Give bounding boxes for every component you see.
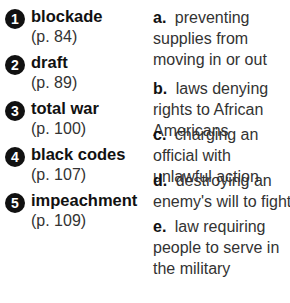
definition-item: a. preventing supplies from moving in or… xyxy=(153,7,290,70)
number-circle-icon: 1 xyxy=(5,9,25,29)
term-word: total war xyxy=(31,99,99,118)
definition-letter: a. xyxy=(153,9,166,26)
definition-letter: b. xyxy=(153,80,167,97)
definition-text: preventing supplies from moving in or ou… xyxy=(153,9,267,68)
page-reference: (p. 89) xyxy=(31,74,77,92)
page-reference: (p. 109) xyxy=(31,212,86,230)
page-reference: (p. 100) xyxy=(31,120,86,138)
number-circle-icon: 5 xyxy=(5,193,25,213)
definition-item: d. destroying an enemy's will to fight xyxy=(153,170,290,212)
definition-letter: d. xyxy=(153,172,167,189)
term-word: impeachment xyxy=(31,191,137,210)
page-reference: (p. 84) xyxy=(31,28,77,46)
number-circle-icon: 4 xyxy=(5,147,25,167)
definition-text: law requiring people to serve in the mil… xyxy=(153,218,279,277)
term-word: black codes xyxy=(31,145,125,164)
definition-text: destroying an enemy's will to fight xyxy=(153,172,290,210)
number-circle-icon: 2 xyxy=(5,55,25,75)
term-word: blockade xyxy=(31,7,103,26)
definition-letter: c. xyxy=(153,126,166,143)
page-reference: (p. 107) xyxy=(31,166,86,184)
definition-item: e. law requiring people to serve in the … xyxy=(153,216,290,279)
term-word: draft xyxy=(31,53,68,72)
definition-letter: e. xyxy=(153,218,166,235)
number-circle-icon: 3 xyxy=(5,101,25,121)
